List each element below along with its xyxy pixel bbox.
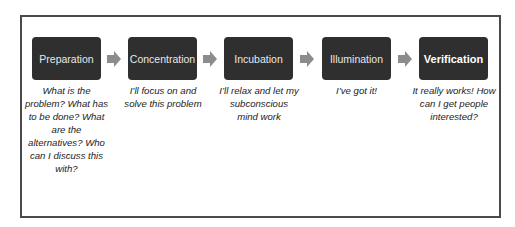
arrow-right-icon [203,51,217,67]
stage-label: Illumination [330,53,383,65]
stage-description-concentration: I’ll focus on and solve this problem [122,84,204,110]
stage-illumination: Illumination [322,37,391,80]
stage-label: Verification [424,53,483,65]
arrow-right-icon [107,51,121,67]
stage-preparation: Preparation [32,37,101,80]
stage-label: Concentration [130,53,195,65]
stage-description-incubation: I’ll relax and let my subconscious mind … [219,84,299,123]
stage-description-preparation: What is the problem? What has to be done… [24,84,109,175]
stage-label: Incubation [234,53,282,65]
stage-concentration: Concentration [128,37,197,80]
arrow-right-icon [398,51,412,67]
stage-description-illumination: I’ve got it! [314,84,399,97]
arrow-right-icon [300,51,314,67]
stage-label: Preparation [39,53,93,65]
stage-verification: Verification [419,37,488,80]
stage-incubation: Incubation [224,37,293,80]
stage-description-verification: It really works! How can I get people in… [412,84,496,123]
